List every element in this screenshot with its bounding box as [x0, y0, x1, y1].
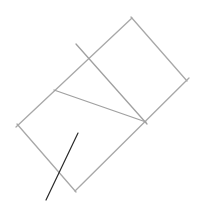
sketch-canvas: [0, 0, 199, 207]
background: [0, 0, 199, 207]
